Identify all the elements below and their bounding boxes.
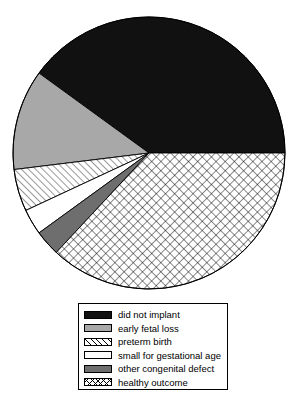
legend-label-small-for-gestational-age: small for gestational age (118, 351, 221, 361)
legend-label-early-fetal-loss: early fetal loss (118, 324, 179, 334)
legend-item-small-for-gestational-age: small for gestational age (84, 349, 227, 363)
legend-item-other-congenital-defect: other congenital defect (84, 362, 227, 376)
legend-item-did-not-implant: did not implant (84, 308, 227, 322)
legend-swatch-early-fetal-loss (84, 324, 112, 332)
pie-slices (13, 17, 285, 289)
legend-item-early-fetal-loss: early fetal loss (84, 322, 227, 336)
legend-label-other-congenital-defect: other congenital defect (118, 364, 214, 374)
pie-chart-figure: did not implant early fetal loss preterm… (0, 0, 297, 411)
legend-label-healthy-outcome: healthy outcome (118, 378, 188, 388)
legend-swatch-small-for-gestational-age (84, 351, 112, 359)
legend-item-healthy-outcome: healthy outcome (84, 376, 227, 390)
legend-swatch-preterm-birth (84, 338, 112, 346)
legend-swatch-did-not-implant (84, 311, 112, 319)
legend-swatch-healthy-outcome (84, 378, 112, 386)
legend-label-did-not-implant: did not implant (118, 310, 180, 320)
chart-legend: did not implant early fetal loss preterm… (78, 303, 228, 390)
legend-swatch-other-congenital-defect (84, 365, 112, 373)
legend-item-preterm-birth: preterm birth (84, 335, 227, 349)
legend-label-preterm-birth: preterm birth (118, 337, 172, 347)
